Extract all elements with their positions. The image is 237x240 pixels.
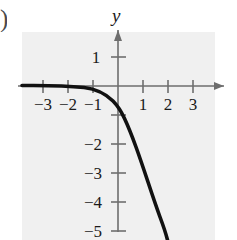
- function-graph-figure: ): [0, 0, 237, 240]
- x-tick-label-1: 1: [133, 96, 153, 113]
- y-tick-label-neg3: −3: [79, 165, 107, 182]
- x-tick-label-neg2: −2: [55, 96, 81, 113]
- x-tick-label-3: 3: [183, 96, 203, 113]
- y-tick-label-1: 1: [87, 49, 105, 66]
- y-tick-label-neg4: −4: [79, 194, 107, 211]
- y-tick-label-neg5: −5: [79, 223, 107, 240]
- y-tick-label-neg2: −2: [79, 136, 107, 153]
- y-axis-label: y: [112, 6, 120, 25]
- x-tick-label-2: 2: [158, 96, 178, 113]
- x-tick-label-neg3: −3: [30, 96, 56, 113]
- graph-canvas: [0, 0, 237, 240]
- x-tick-label-neg1: −1: [80, 96, 106, 113]
